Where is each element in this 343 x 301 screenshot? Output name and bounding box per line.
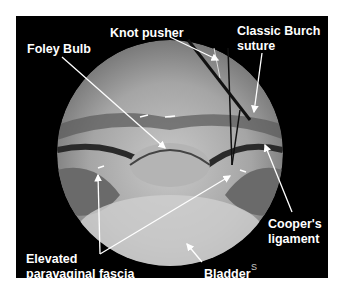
label-knot-pusher: Knot pusher: [110, 26, 184, 41]
label-foley-bulb: Foley Bulb: [27, 42, 91, 57]
label-coopers-line2: ligament: [268, 232, 319, 247]
label-classic-burch-line1: Classic Burch: [237, 24, 320, 39]
label-coopers-line1: Cooper's: [268, 217, 322, 232]
label-classic-burch-line2: suture: [237, 39, 275, 54]
label-bladder: Bladder: [204, 267, 251, 282]
label-elevated-line1: Elevated: [26, 252, 77, 267]
artist-signature: S: [251, 262, 257, 272]
label-elevated-line2: paravaginal fascia: [26, 267, 134, 282]
